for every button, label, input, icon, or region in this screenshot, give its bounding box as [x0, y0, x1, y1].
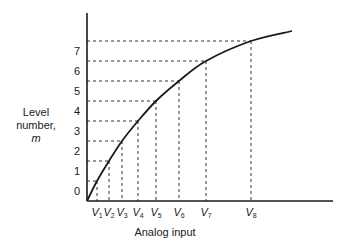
y-axis-title-line3: m [8, 132, 64, 145]
y-tick-4: 4 [71, 105, 83, 117]
y-axis-title-line1: Level [23, 106, 49, 118]
x-tick-v4: V4 [132, 206, 143, 222]
x-tick-v1: V1 [91, 206, 102, 222]
y-axis-title: Level number, m [8, 106, 64, 145]
x-tick-v5: V5 [150, 206, 161, 222]
x-tick-v8: V8 [245, 206, 256, 222]
y-tick-0: 0 [71, 185, 83, 197]
y-tick-7: 7 [71, 45, 83, 57]
x-tick-v7: V7 [200, 206, 211, 222]
x-tick-v6: V6 [173, 206, 184, 222]
quantizer-curve [87, 31, 292, 201]
y-tick-1: 1 [71, 165, 83, 177]
y-tick-3: 3 [71, 125, 83, 137]
y-tick-2: 2 [71, 145, 83, 157]
x-axis-title: Analog input [120, 226, 210, 238]
dashed-projection-lines [87, 41, 251, 201]
y-axis-title-line2: number, [16, 119, 56, 131]
y-tick-6: 6 [71, 65, 83, 77]
x-tick-v2: V2 [103, 206, 114, 222]
y-tick-5: 5 [71, 85, 83, 97]
x-tick-v3: V3 [116, 206, 127, 222]
